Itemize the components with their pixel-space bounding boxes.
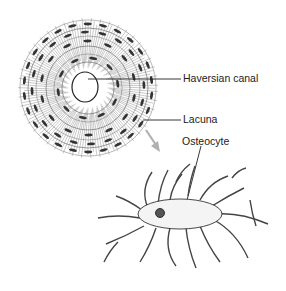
label-lacuna: Lacuna [183,113,217,125]
osteocyte-cell [98,164,268,268]
arrow-icon [146,130,160,152]
haversian-canal [72,72,98,102]
bone-diagram [0,0,286,291]
label-haversian-canal: Haversian canal [183,72,258,84]
label-osteocyte: Osteocyte [182,135,229,147]
osteocyte-leader-line [185,146,201,208]
nucleus [156,209,165,218]
